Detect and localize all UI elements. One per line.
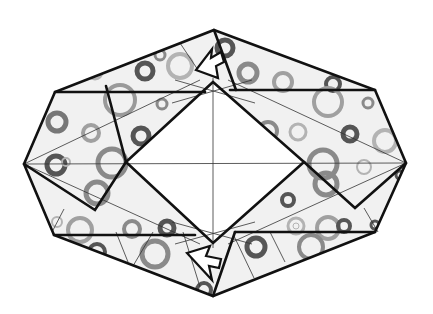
origami-diagram: Origami folding step: octagonal frame wi… <box>0 0 433 314</box>
diagram-canvas <box>0 0 433 314</box>
